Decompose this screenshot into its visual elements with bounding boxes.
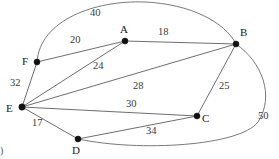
edge-a-b (125, 41, 236, 44)
edge-e-a (22, 41, 125, 107)
edge-weight-d-c: 34 (146, 126, 157, 137)
edge-weight-e-c: 30 (126, 99, 137, 110)
edge-weight-b-d: 50 (258, 111, 269, 122)
graph-diagram: A B C D E F 40 20 18 24 28 30 32 17 34 2… (0, 0, 279, 159)
vertex-label-c: C (202, 113, 209, 124)
edge-b-c (197, 44, 236, 116)
vertex-a[interactable] (122, 38, 128, 44)
edge-e-f (22, 62, 37, 107)
edge-weight-e-b: 28 (133, 81, 144, 92)
edge-weight-f-a: 20 (70, 35, 81, 46)
vertex-c[interactable] (194, 113, 200, 119)
edge-b-d (78, 44, 266, 146)
vertex-label-b: B (240, 27, 247, 38)
vertex-f[interactable] (34, 59, 40, 65)
edge-d-c (78, 116, 197, 139)
edge-weight-b-c: 25 (219, 81, 230, 92)
edge-weight-a-b: 18 (158, 27, 169, 38)
vertex-label-a: A (120, 24, 128, 35)
vertex-label-f: F (22, 56, 28, 67)
figure-corner-mark: ) (0, 146, 3, 156)
vertex-label-e: E (6, 103, 13, 114)
edge-e-d (22, 107, 78, 139)
edge-e-c (22, 107, 197, 116)
edge-weight-e-f: 32 (10, 78, 21, 89)
edge-weight-f-b: 40 (90, 8, 101, 19)
edge-f-a (37, 41, 125, 62)
vertex-e[interactable] (19, 104, 25, 110)
vertex-b[interactable] (233, 41, 239, 47)
edge-weight-e-d: 17 (32, 118, 43, 129)
edge-weight-e-a: 24 (93, 61, 104, 72)
vertex-d[interactable] (75, 136, 81, 142)
vertex-label-d: D (72, 145, 80, 156)
